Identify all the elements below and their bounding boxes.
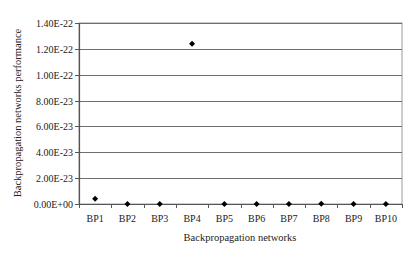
x-tick-label: BP9 bbox=[345, 213, 362, 224]
y-tick-label: 4.00E-23 bbox=[36, 147, 73, 158]
x-tick-label: BP2 bbox=[119, 213, 136, 224]
scatter-chart: 0.00E+002.00E-234.00E-236.00E-238.00E-23… bbox=[0, 0, 418, 254]
x-axis-tick-labels: BP1BP2BP3BP4BP5BP6BP7BP8BP9BP10 bbox=[87, 213, 397, 224]
y-tick-label: 2.00E-23 bbox=[36, 173, 73, 184]
x-tick-label: BP4 bbox=[183, 213, 200, 224]
x-tick-label: BP1 bbox=[87, 213, 104, 224]
plot-area bbox=[79, 23, 402, 204]
y-tick-label: 8.00E-23 bbox=[36, 96, 73, 107]
y-tick-label: 1.00E-22 bbox=[36, 70, 73, 81]
y-tick-label: 1.20E-22 bbox=[36, 44, 73, 55]
y-tick-label: 6.00E-23 bbox=[36, 121, 73, 132]
x-tick-label: BP5 bbox=[216, 213, 233, 224]
x-tick-label: BP10 bbox=[375, 213, 397, 224]
x-axis-title: Backpropagation networks bbox=[184, 232, 297, 243]
y-axis-title: Backpropagation networks performance bbox=[12, 28, 23, 197]
x-tick-label: BP3 bbox=[151, 213, 168, 224]
y-tick-label: 0.00E+00 bbox=[34, 199, 73, 210]
y-tick-label: 1.40E-22 bbox=[36, 18, 73, 29]
y-axis-tick-labels: 0.00E+002.00E-234.00E-236.00E-238.00E-23… bbox=[34, 18, 73, 210]
x-tick-label: BP8 bbox=[313, 213, 330, 224]
x-tick-label: BP6 bbox=[248, 213, 265, 224]
x-tick-label: BP7 bbox=[280, 213, 297, 224]
